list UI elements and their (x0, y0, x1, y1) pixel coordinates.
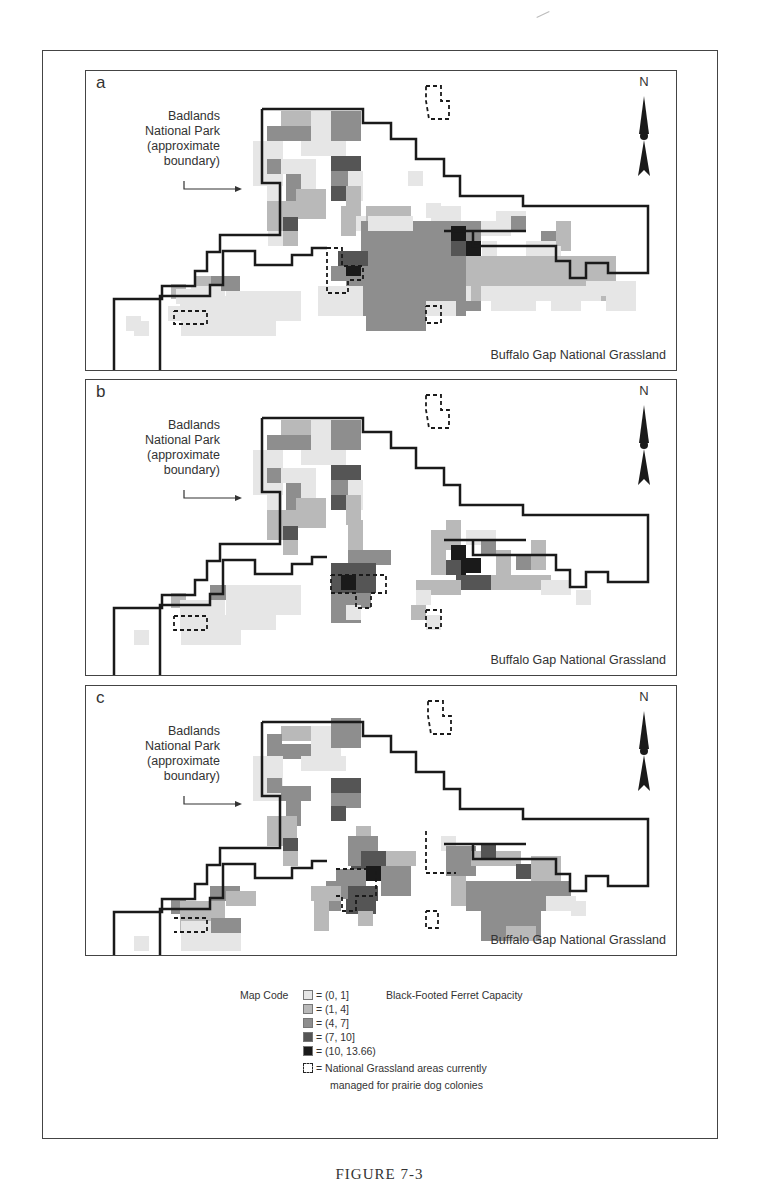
grassland-label: Buffalo Gap National Grassland (490, 933, 666, 947)
legend-item-3: = (4, 7] (303, 1016, 349, 1029)
legend-item-2: = (1, 4] (303, 1002, 349, 1015)
legend-item-dashed: = National Grassland areas currently (303, 1061, 487, 1074)
park-label: Badlands National Park (approximate boun… (128, 724, 220, 784)
swatch-level-5 (303, 1046, 313, 1056)
map-panel-c: c Badlands National Park (approximate bo… (85, 685, 677, 956)
park-label: Badlands National Park (approximate boun… (128, 418, 220, 478)
dashed-box-icon (303, 1063, 313, 1073)
scan-mark (536, 11, 549, 18)
north-label: N (634, 74, 654, 89)
legend-item-4: = (7, 10] (303, 1030, 355, 1043)
north-arrow-icon (638, 405, 650, 485)
legend-item-5: = (10, 13.66) (303, 1044, 376, 1057)
figure-caption: FIGURE 7-3 (0, 1166, 759, 1183)
legend-measure: Black-Footed Ferret Capacity (386, 989, 523, 1001)
grassland-label: Buffalo Gap National Grassland (490, 348, 666, 362)
legend-dashed-line2: managed for prairie dog colonies (330, 1079, 483, 1091)
north-arrow-icon (638, 711, 650, 791)
swatch-level-2 (303, 1004, 313, 1014)
legend-title: Map Code (240, 989, 288, 1001)
panel-letter: c (96, 688, 105, 708)
north-label: N (634, 689, 654, 704)
map-panel-b: b Badlands National Park (approximate bo… (85, 379, 677, 676)
map-panel-a: a Badlands National Park (approximate bo… (85, 70, 677, 371)
legend-item-1: = (0, 1] (303, 988, 349, 1001)
north-label: N (634, 383, 654, 398)
swatch-level-1 (303, 990, 313, 1000)
north-arrow-icon (638, 96, 650, 176)
swatch-level-3 (303, 1018, 313, 1028)
park-label: Badlands National Park (approximate boun… (128, 109, 220, 169)
swatch-level-4 (303, 1032, 313, 1042)
panel-letter: a (96, 73, 105, 93)
panel-letter: b (96, 382, 105, 402)
grassland-label: Buffalo Gap National Grassland (490, 653, 666, 667)
